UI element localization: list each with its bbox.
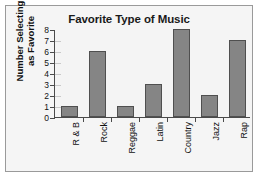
x-axis-label: Country xyxy=(184,122,193,154)
y-axis-tick-label: 1 xyxy=(44,103,49,112)
bar-slot xyxy=(145,30,162,117)
bar xyxy=(201,95,218,117)
x-axis-tick xyxy=(139,117,140,122)
y-axis-tick-label: 4 xyxy=(44,70,49,79)
y-axis-tick-label: 6 xyxy=(44,48,49,57)
y-axis-tick xyxy=(50,118,55,119)
x-axis-label: Rock xyxy=(100,122,109,143)
x-axis-label: Jazz xyxy=(212,122,221,141)
y-axis-tick-label: 2 xyxy=(44,92,49,101)
bar xyxy=(61,106,78,117)
bar xyxy=(117,106,134,117)
x-axis-tick xyxy=(223,117,224,122)
y-axis-tick-label: 8 xyxy=(44,26,49,35)
chart-title: Favorite Type of Music xyxy=(6,13,252,25)
y-axis-tick-label: 3 xyxy=(44,81,49,90)
x-axis-tick xyxy=(111,117,112,122)
bar-slot xyxy=(201,30,218,117)
x-axis-label: Reggae xyxy=(128,122,137,154)
x-axis-tick xyxy=(167,117,168,122)
bar-slot xyxy=(229,30,246,117)
chart-figure-background: Favorite Type of Music Number Selecting … xyxy=(6,6,252,171)
x-axis-tick xyxy=(195,117,196,122)
bars-layer xyxy=(55,30,250,117)
plot-area: 012345678 xyxy=(54,30,250,118)
bar xyxy=(145,84,162,117)
bar-slot xyxy=(61,30,78,117)
bar xyxy=(229,40,246,117)
y-axis-tick-label: 0 xyxy=(44,114,49,123)
bar-slot xyxy=(173,30,190,117)
x-axis-label: Latin xyxy=(156,122,165,142)
x-axis-label: Rap xyxy=(240,122,249,139)
bar-slot xyxy=(89,30,106,117)
y-axis-tick-label: 5 xyxy=(44,59,49,68)
bar xyxy=(89,51,106,117)
x-axis-label: R & B xyxy=(72,122,81,146)
x-axis-tick xyxy=(83,117,84,122)
y-axis-tick-label: 7 xyxy=(44,37,49,46)
bar xyxy=(173,29,190,117)
bar-slot xyxy=(117,30,134,117)
chart-figure-frame: Favorite Type of Music Number Selecting … xyxy=(5,5,253,172)
